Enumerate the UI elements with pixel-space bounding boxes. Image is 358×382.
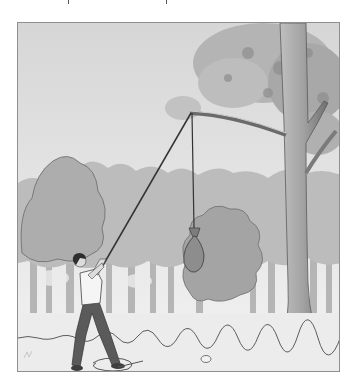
scene-illustration	[18, 23, 340, 372]
top-crop-mark-left	[68, 0, 69, 4]
ground	[18, 313, 340, 372]
top-crop-mark-right	[166, 0, 167, 4]
stone	[201, 356, 211, 363]
illustration-frame	[17, 22, 340, 372]
left-shoe	[71, 365, 83, 371]
